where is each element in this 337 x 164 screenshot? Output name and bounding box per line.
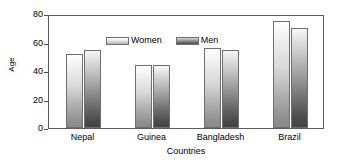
y-axis-title: Age bbox=[7, 45, 16, 85]
bar-brazil-women bbox=[273, 21, 290, 128]
legend-label-men: Men bbox=[201, 36, 219, 45]
x-axis-tick-label: Bangladesh bbox=[197, 132, 245, 142]
bar-brazil-men bbox=[291, 28, 308, 128]
legend-item-women: Women bbox=[106, 36, 162, 45]
bar-nepal-men bbox=[84, 50, 101, 128]
legend-swatch-men-icon bbox=[176, 37, 199, 45]
x-axis-title: Countries bbox=[48, 146, 324, 156]
plot-area: Women Men bbox=[48, 15, 324, 129]
x-axis-tick-labels: NepalGuineaBangladeshBrazil bbox=[48, 132, 324, 146]
bar-chart: Age 020406080 Women Men NepalGuineaBangl… bbox=[0, 0, 337, 164]
bar-guinea-men bbox=[153, 65, 170, 128]
legend-item-men: Men bbox=[176, 36, 219, 45]
bar-bangladesh-men bbox=[222, 50, 239, 128]
y-axis-tick-label: 20 bbox=[25, 96, 43, 105]
legend-swatch-women-icon bbox=[106, 37, 129, 45]
legend-label-women: Women bbox=[131, 36, 162, 45]
chart-legend: Women Men bbox=[106, 36, 218, 45]
bars-layer bbox=[49, 16, 323, 128]
x-axis-tick-label: Nepal bbox=[71, 132, 95, 142]
y-axis-tick-labels: 020406080 bbox=[23, 0, 43, 164]
y-axis-tick-label: 60 bbox=[25, 39, 43, 48]
y-axis-tick-label: 40 bbox=[25, 67, 43, 76]
bar-nepal-women bbox=[66, 54, 83, 128]
y-axis-tick-label: 0 bbox=[25, 124, 43, 133]
bar-bangladesh-women bbox=[204, 48, 221, 128]
x-axis-tick-label: Brazil bbox=[278, 132, 301, 142]
bar-guinea-women bbox=[135, 65, 152, 128]
x-axis-tick-label: Guinea bbox=[137, 132, 166, 142]
y-axis-tick-mark bbox=[44, 129, 48, 130]
y-axis-tick-label: 80 bbox=[25, 10, 43, 19]
